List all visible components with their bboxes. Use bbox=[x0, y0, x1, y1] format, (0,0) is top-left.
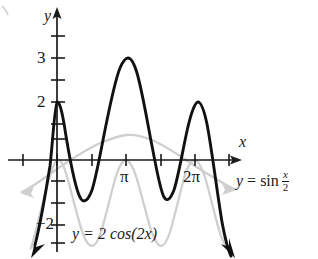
x-tick-label-pi: π bbox=[120, 168, 129, 185]
equation-sine-function: sin bbox=[260, 172, 279, 189]
stray-mark bbox=[2, 6, 8, 15]
sine-right-arrowhead bbox=[222, 183, 236, 195]
x-tick-label-2pi: 2π bbox=[183, 168, 200, 185]
fraction-x-over-2: x2 bbox=[282, 169, 290, 193]
equation-label-sine: y=sinx2 bbox=[236, 169, 289, 193]
y-tick-label-neg2: −2 bbox=[36, 215, 54, 232]
y-tick-label-3: 3 bbox=[37, 49, 46, 66]
y-tick-label-2: 2 bbox=[37, 93, 46, 110]
equation-label-cosine: y = 2 cos(2x) bbox=[72, 226, 157, 242]
y-axis-label: y bbox=[44, 8, 51, 24]
equation-sine-lhs: y bbox=[236, 172, 243, 189]
fraction-numerator: x bbox=[282, 169, 290, 182]
sine-left-arrowhead bbox=[20, 186, 34, 198]
fraction-denominator: 2 bbox=[282, 182, 290, 194]
x-axis-label: x bbox=[239, 134, 246, 150]
axis-arrowheads bbox=[53, 7, 243, 165]
figure-graph-trig-sum: y x 3 2 −2 π 2π y=sinx2 y = 2 cos(2x) bbox=[0, 0, 318, 259]
equation-sine-equals: = bbox=[247, 172, 256, 189]
